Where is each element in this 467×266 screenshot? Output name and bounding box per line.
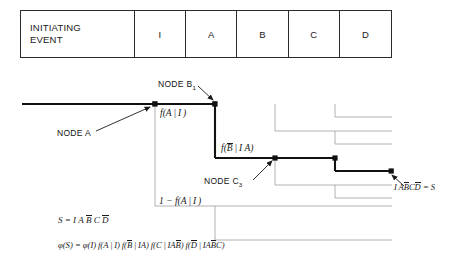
node-b1-label: NODE B1: [158, 79, 196, 91]
equation-phi-s: φ(S) = φ(I) f(A | I) f(B | IA) f(C | IAB…: [58, 240, 225, 250]
node-marker-c3: [272, 155, 277, 160]
node-b1-subscript: 1: [192, 84, 196, 91]
node-c3-subscript: 3: [239, 181, 243, 188]
diagram-canvas: INITIATING EVENT I A B C D: [0, 0, 467, 266]
node-b1-text: NODE B: [158, 79, 192, 89]
branch-node-markers: [152, 101, 394, 173]
node-a-label: NODE A: [57, 128, 91, 138]
sequence-outcome-label: I ABCD = S: [394, 182, 435, 192]
branch-probability-b-bar: f(B | I A): [221, 143, 253, 154]
node-c3-text: NODE C: [204, 176, 239, 186]
node-marker-b1: [212, 101, 217, 106]
node-marker-d: [332, 155, 337, 160]
leader-node-b1: [198, 86, 213, 100]
leader-node-a: [96, 107, 150, 131]
branch-probability-a-complement: 1 − f(A | I ): [159, 196, 201, 206]
leader-node-c3: [253, 161, 272, 180]
node-marker-a: [152, 101, 157, 106]
branch-probability-a: f(A | I ): [160, 108, 186, 118]
node-c3-label: NODE C3: [204, 176, 243, 188]
node-marker-outcome: [389, 168, 394, 173]
equation-s-definition: S = I A B C D: [58, 215, 109, 225]
